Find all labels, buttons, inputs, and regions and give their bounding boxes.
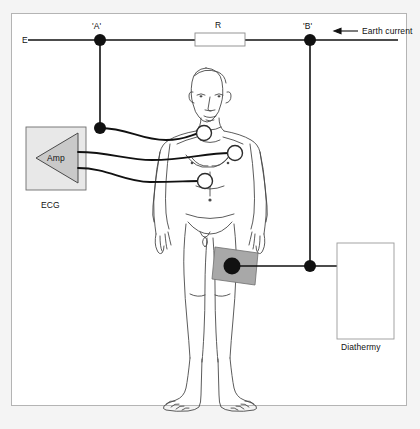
ecg-box-label: ECG — [41, 200, 60, 210]
circuit-nodes — [94, 34, 351, 275]
patient-body-outline — [153, 68, 268, 411]
earth-label: E — [22, 35, 28, 45]
diathermy-box — [337, 243, 394, 339]
node-bottom-left — [304, 260, 316, 272]
node-b-label: 'B' — [303, 21, 312, 31]
diathermy-box-label: Diathermy — [341, 342, 381, 352]
chest-electrodes — [197, 126, 243, 189]
node-a-label: 'A' — [92, 21, 101, 31]
node-ecg-tap — [94, 122, 106, 134]
amplifier-label: Amp — [47, 153, 65, 163]
resistor-r — [195, 33, 245, 46]
node-thigh-plate-electrode — [224, 258, 241, 275]
figure-canvas: A --> resistor --> B --> right edge --> — [0, 0, 420, 429]
node-a — [94, 34, 106, 46]
chest-electrode-lower-right — [198, 174, 213, 189]
earth-current-label: Earth current — [362, 26, 412, 36]
diagram-svg: A --> resistor --> B --> right edge --> — [0, 0, 420, 429]
chest-electrode-upper-right — [197, 126, 212, 141]
node-b — [304, 34, 316, 46]
resistor-label: R — [215, 20, 221, 30]
earth-current-arrow-icon — [334, 28, 358, 34]
chest-electrode-mid-left — [228, 146, 243, 161]
